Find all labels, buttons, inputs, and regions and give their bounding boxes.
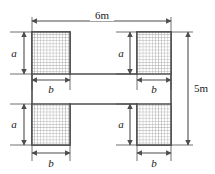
measure-a-bottom-left: a bbox=[10, 104, 32, 145]
measure-b-top-right-label: b bbox=[151, 83, 157, 95]
measure-a-top-left: a bbox=[10, 32, 32, 74]
measure-b-top-left: b bbox=[32, 74, 70, 95]
corner-square-top-left-shape bbox=[32, 32, 70, 74]
figure-canvas: 6m 5m a b a bbox=[0, 0, 215, 174]
geometry-figure: 6m 5m a b a bbox=[0, 0, 215, 174]
measure-b-top-left-label: b bbox=[48, 83, 54, 95]
measure-b-bottom-left: b bbox=[32, 145, 70, 169]
corner-square-top-left bbox=[32, 32, 70, 74]
measure-a-top-right-label: a bbox=[118, 47, 124, 59]
measure-a-bottom-right-label: a bbox=[118, 118, 124, 130]
measure-a-top-left-label: a bbox=[11, 47, 17, 59]
corner-square-bottom-right-shape bbox=[137, 104, 171, 145]
corner-square-top-right bbox=[137, 32, 171, 74]
measure-b-bottom-right: b bbox=[137, 145, 171, 169]
measure-a-top-right: a bbox=[116, 32, 137, 74]
dimension-top-width: 6m bbox=[32, 8, 171, 32]
corner-square-bottom-right bbox=[137, 104, 171, 145]
corner-square-bottom-left-shape bbox=[32, 104, 70, 145]
measure-a-bottom-right: a bbox=[116, 104, 137, 145]
measure-b-bottom-right-label: b bbox=[151, 157, 157, 169]
measure-a-bottom-left-label: a bbox=[11, 118, 17, 130]
corner-square-bottom-left bbox=[32, 104, 70, 145]
corner-square-top-right-shape bbox=[137, 32, 171, 74]
dimension-right-height: 5m bbox=[171, 32, 214, 145]
dimension-right-label: 5m bbox=[194, 82, 209, 94]
measure-b-bottom-left-label: b bbox=[48, 157, 54, 169]
dimension-top-label: 6m bbox=[95, 9, 110, 21]
measure-b-top-right: b bbox=[137, 74, 171, 95]
